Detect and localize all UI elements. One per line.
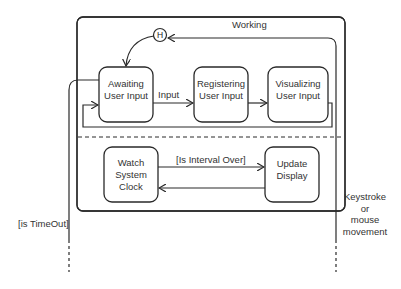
state-label-line: Registering (197, 78, 245, 90)
state-registering: RegisteringUser Input (194, 67, 248, 113)
interval-transition-label: [Is Interval Over] (176, 154, 246, 165)
state-label-line: Clock (115, 181, 147, 193)
state-label-line: Update (276, 158, 307, 170)
keystroke-label-line: mouse (342, 214, 388, 226)
history-to-awaiting-transition (126, 36, 154, 66)
state-visualizing: VisualizingUser Input (268, 67, 328, 113)
state-label-line: Display (276, 170, 307, 182)
keystroke-label-line: movement (342, 226, 388, 238)
keystroke-label-line: Keystroke (342, 191, 388, 203)
keystroke-label-line: or (342, 203, 388, 215)
history-label: H (153, 30, 167, 40)
state-diagram-canvas (0, 0, 401, 289)
working-title: Working (232, 19, 267, 30)
state-label-line: System (115, 169, 147, 181)
keystroke-transition-label: Keystroke or mouse movement (342, 191, 388, 237)
timeout-transition-label: [is TimeOut] (18, 218, 69, 229)
state-label-line: Visualizing (275, 78, 320, 90)
state-update: UpdateDisplay (265, 147, 319, 193)
state-label-line: User Input (104, 90, 148, 102)
input-transition-label: Input (158, 89, 179, 100)
state-watch: WatchSystemClock (104, 147, 158, 202)
state-label-line: Watch (115, 157, 147, 169)
state-label-line: User Input (275, 90, 320, 102)
state-label-line: User Input (197, 90, 245, 102)
timeout-transition (69, 80, 99, 240)
state-awaiting: AwaitingUser Input (99, 67, 153, 113)
state-label-line: Awaiting (104, 78, 148, 90)
